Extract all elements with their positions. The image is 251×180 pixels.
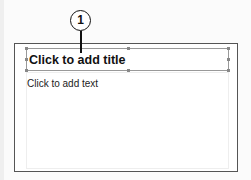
resize-handle-top-left[interactable]	[25, 47, 28, 50]
callout-leader-line	[80, 31, 82, 53]
slide-canvas[interactable]: Click to add title Click to add text	[14, 43, 238, 172]
body-placeholder-text: Click to add text	[27, 78, 98, 89]
resize-handle-top-right[interactable]	[227, 47, 230, 50]
resize-handle-middle-left[interactable]	[25, 58, 28, 61]
resize-handle-middle-right[interactable]	[227, 58, 230, 61]
body-placeholder[interactable]: Click to add text	[26, 72, 229, 169]
window-edge	[0, 0, 4, 180]
title-placeholder[interactable]: Click to add title	[26, 48, 229, 71]
callout-number-badge: 1	[70, 10, 91, 31]
resize-handle-top-center[interactable]	[127, 47, 130, 50]
title-placeholder-text: Click to add title	[29, 53, 126, 67]
